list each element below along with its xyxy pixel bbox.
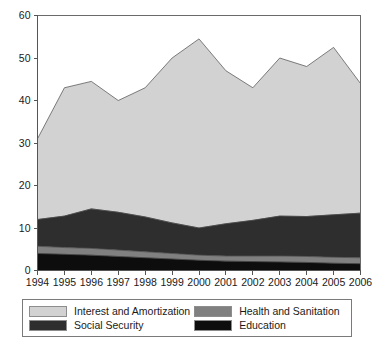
x-tick-label: 2005 [322, 276, 346, 288]
legend-item-label: Interest and Amortization [74, 305, 190, 317]
y-tick-label: 50 [19, 52, 31, 64]
legend-item-label: Social Security [74, 319, 143, 331]
legend-item[interactable]: Health and Sanitation [194, 305, 345, 317]
x-tick-label: 2003 [268, 276, 292, 288]
x-axis: 1994199519961997199819992000200120022003… [26, 271, 373, 289]
x-tick-label: 1996 [80, 276, 104, 288]
chart-svg: 0102030405060 19941995199619971998199920… [0, 0, 380, 292]
chart-legend: Interest and AmortizationHealth and Sani… [22, 299, 352, 337]
legend-item[interactable]: Interest and Amortization [29, 305, 190, 317]
stacked-area-chart: 0102030405060 19941995199619971998199920… [0, 0, 380, 353]
legend-swatch-icon [194, 306, 232, 317]
plot-area: 0102030405060 19941995199619971998199920… [0, 0, 380, 292]
legend-swatch-icon [29, 306, 67, 317]
legend-swatch-icon [29, 320, 67, 331]
y-tick-label: 10 [19, 222, 31, 234]
x-tick-label: 2001 [214, 276, 238, 288]
y-axis: 0102030405060 [19, 9, 38, 276]
y-tick-label: 0 [25, 264, 31, 276]
x-tick-label: 2002 [241, 276, 265, 288]
legend-item[interactable]: Education [194, 319, 345, 331]
legend-item[interactable]: Social Security [29, 319, 190, 331]
area-series-group [38, 39, 361, 271]
x-tick-label: 2000 [187, 276, 211, 288]
x-tick-label: 1994 [26, 276, 50, 288]
y-tick-label: 30 [19, 137, 31, 149]
x-tick-label: 2006 [349, 276, 373, 288]
area-series-interest-and-amortization [38, 39, 361, 228]
legend-swatch-icon [194, 320, 232, 331]
x-tick-label: 1999 [160, 276, 184, 288]
y-tick-label: 40 [19, 94, 31, 106]
x-tick-label: 1995 [53, 276, 77, 288]
x-tick-label: 1997 [107, 276, 131, 288]
y-tick-label: 20 [19, 179, 31, 191]
x-tick-label: 2004 [295, 276, 319, 288]
legend-item-label: Education [239, 319, 286, 331]
x-tick-label: 1998 [133, 276, 157, 288]
legend-item-label: Health and Sanitation [239, 305, 339, 317]
y-tick-label: 60 [19, 9, 31, 21]
